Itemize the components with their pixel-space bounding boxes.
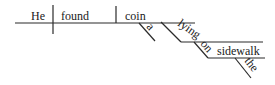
sentence-diagram: He found coin a lying on sidewalk the [0, 0, 275, 85]
word-preposition: on [198, 37, 216, 55]
word-object-modifier: a [144, 20, 159, 34]
word-object: coin [125, 9, 146, 23]
word-verb: found [61, 9, 89, 23]
word-participle: lying [175, 16, 203, 42]
word-subject: He [31, 9, 45, 23]
